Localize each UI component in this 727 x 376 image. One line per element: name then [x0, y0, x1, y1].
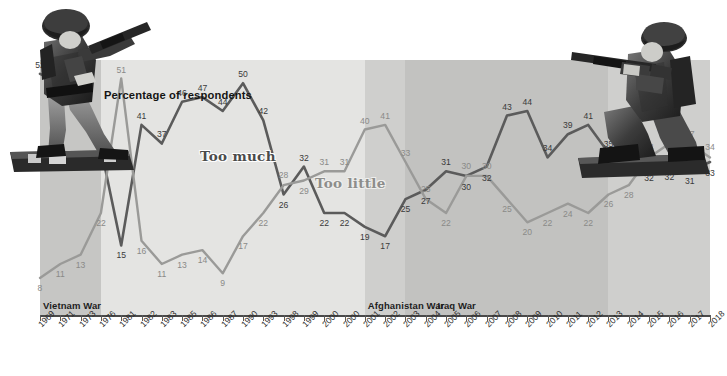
data-label: 8 — [38, 283, 43, 293]
data-label: 41 — [380, 111, 390, 121]
data-label: 30 — [482, 161, 492, 171]
data-label: 42 — [259, 106, 269, 116]
data-label: 43 — [502, 102, 512, 112]
data-label: 25 — [401, 204, 411, 214]
data-label: 19 — [360, 232, 370, 242]
data-label: 26 — [279, 200, 289, 210]
toy-soldier-standing-icon — [4, 2, 154, 186]
data-label: 40 — [360, 116, 370, 126]
data-label: 11 — [56, 269, 65, 279]
data-label: 22 — [441, 218, 451, 228]
data-label: 22 — [583, 218, 593, 228]
data-label: 30 — [462, 182, 472, 192]
data-label: 13 — [177, 260, 187, 270]
data-label: 9 — [220, 278, 225, 288]
data-label: 22 — [319, 218, 329, 228]
data-label: 28 — [624, 190, 634, 200]
series-label-too-much: Too much — [200, 148, 276, 164]
war-band-label-vietnam: Vietnam War — [43, 300, 101, 311]
data-label: 32 — [299, 153, 309, 163]
data-label: 17 — [238, 241, 248, 251]
data-label: 22 — [543, 218, 553, 228]
data-label: 24 — [563, 209, 573, 219]
data-label: 16 — [137, 246, 147, 256]
data-label: 26 — [604, 199, 614, 209]
data-label: 33 — [401, 148, 411, 158]
series-label-too-little: Too little — [315, 175, 386, 191]
data-label: 30 — [462, 161, 472, 171]
data-label: 29 — [299, 186, 309, 196]
data-label: 17 — [380, 241, 390, 251]
data-label: 31 — [441, 157, 451, 167]
data-label: 22 — [96, 218, 106, 228]
data-label: 27 — [421, 196, 431, 206]
toy-soldier-kneeling-icon — [564, 8, 716, 184]
data-label: 28 — [279, 170, 289, 180]
data-label: 22 — [259, 218, 269, 228]
data-label: 25 — [421, 184, 431, 194]
data-label: 31 — [340, 157, 350, 167]
data-label: 11 — [157, 269, 166, 279]
data-label: 44 — [522, 97, 532, 107]
data-label: 13 — [76, 260, 86, 270]
data-label: 15 — [116, 250, 126, 260]
data-label: 31 — [319, 157, 329, 167]
data-label: 25 — [502, 204, 512, 214]
data-label: 22 — [340, 218, 350, 228]
data-label: 20 — [522, 227, 532, 237]
data-label: 34 — [543, 143, 553, 153]
data-label: 50 — [238, 69, 248, 79]
data-label: 37 — [157, 129, 167, 139]
data-label: 14 — [198, 255, 208, 265]
data-label: 32 — [482, 173, 492, 183]
